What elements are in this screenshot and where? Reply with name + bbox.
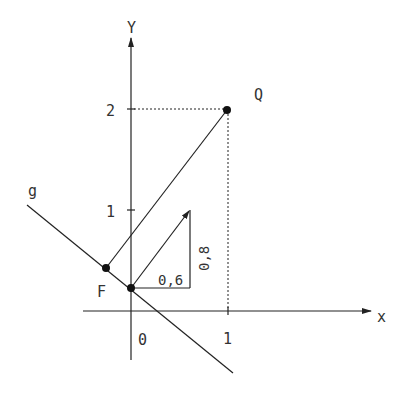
x-axis-label: x	[377, 308, 386, 326]
line-g: g	[27, 182, 233, 373]
point-q-label: Q	[254, 86, 263, 104]
y-tick-label-1: 1	[106, 203, 115, 221]
point-f-label: F	[97, 283, 106, 301]
origin-label: 0	[138, 331, 147, 349]
x-axis: x 1 0	[83, 307, 386, 349]
y-tick-label-2: 2	[106, 102, 115, 120]
x-tick-label-1: 1	[223, 330, 232, 348]
y-axis-label: Y	[127, 19, 136, 37]
segment-pq	[106, 110, 227, 268]
point-p	[102, 264, 110, 272]
point-q: Q	[223, 86, 263, 114]
coordinate-diagram: x 1 0 Y 1 2 g 0,6 0,8 F Q	[0, 0, 409, 395]
y-axis: Y 1 2	[106, 19, 136, 360]
vector-dx-label: 0,6	[158, 272, 183, 288]
direction-vector: 0,6 0,8	[131, 210, 212, 288]
vector-dy-label: 0,8	[196, 246, 212, 271]
line-g-label: g	[28, 182, 37, 200]
point-f: F	[97, 283, 135, 301]
